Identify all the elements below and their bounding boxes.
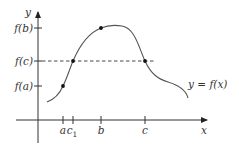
x-label-c: c bbox=[142, 124, 148, 136]
x-axis-label: x bbox=[201, 124, 207, 136]
point-c bbox=[143, 59, 147, 63]
x-label-b: b bbox=[98, 124, 105, 136]
function-curve bbox=[47, 25, 188, 102]
y-axis-label: y bbox=[24, 6, 32, 18]
ivt-diagram: y x f(b) f(c) f(a) a c1 b c y = f(x) bbox=[0, 0, 239, 152]
x-label-a: a bbox=[60, 124, 66, 136]
point-a bbox=[61, 84, 65, 88]
point-b bbox=[99, 26, 103, 30]
y-label-fa: f(a) bbox=[14, 80, 33, 92]
y-label-fb: f(b) bbox=[13, 22, 33, 34]
y-label-fc: f(c) bbox=[14, 55, 33, 67]
x-label-c1: c1 bbox=[67, 124, 78, 139]
point-c1 bbox=[71, 59, 75, 63]
curve-label: y = f(x) bbox=[187, 78, 227, 90]
